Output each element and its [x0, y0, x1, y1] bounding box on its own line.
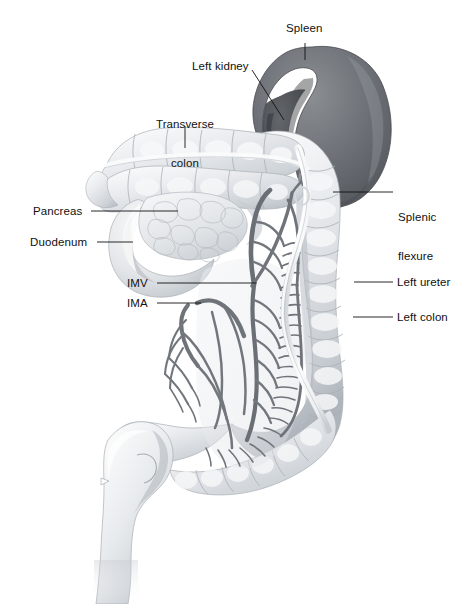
label-splenic-flexure: Splenic flexure — [398, 185, 436, 289]
label-splenic-flexure-line2: flexure — [398, 250, 436, 263]
anatomy-illustration — [0, 0, 470, 604]
label-left-kidney: Left kidney — [192, 60, 249, 73]
label-left-colon: Left colon — [397, 311, 448, 324]
label-ima: IMA — [127, 297, 148, 310]
figure-canvas: Spleen Left kidney Transverse colon Sple… — [0, 0, 470, 604]
sigmoid-vasa-recta — [170, 388, 200, 422]
label-spleen: Spleen — [286, 22, 322, 35]
ima-root — [181, 305, 198, 366]
label-transverse-colon: Transverse colon — [135, 92, 235, 196]
label-splenic-flexure-line1: Splenic — [398, 211, 436, 224]
sigmoid-arteries — [165, 320, 192, 404]
label-transverse-colon-line2: colon — [135, 157, 235, 170]
pancreas-shape — [139, 192, 247, 260]
label-pancreas: Pancreas — [33, 205, 82, 218]
label-imv: IMV — [127, 277, 148, 290]
label-duodenum: Duodenum — [30, 236, 87, 249]
label-left-ureter: Left ureter — [397, 276, 451, 289]
label-transverse-colon-line1: Transverse — [135, 118, 235, 131]
bottom-fade — [94, 560, 138, 604]
